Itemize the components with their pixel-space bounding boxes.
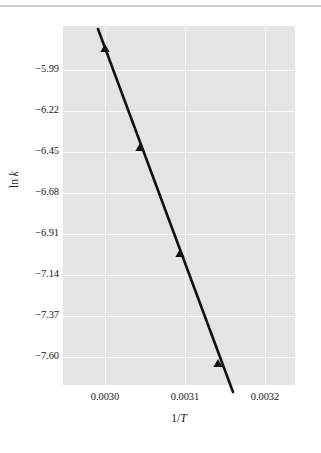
x-axis-title: 1/T <box>63 412 295 424</box>
x-tick-label: 0.0032 <box>225 391 305 402</box>
x-axis-title-variable: T <box>180 412 186 424</box>
y-axis-title: ln k <box>8 171 20 188</box>
y-tick-label: −5.99 <box>3 64 59 75</box>
arrhenius-plot-figure: −5.99 −6.22 −6.45 −6.68 −6.91 −7.14 −7.3… <box>0 0 321 453</box>
gridline-horizontal <box>63 316 295 317</box>
y-tick-label: −7.60 <box>3 351 59 362</box>
y-axis-title-variable: k <box>8 171 20 176</box>
x-tick-label: 0.0031 <box>145 391 225 402</box>
gridline-horizontal <box>63 357 295 358</box>
gridline-horizontal <box>63 275 295 276</box>
gridline-horizontal <box>63 152 295 153</box>
x-tick-label: 0.0030 <box>65 391 145 402</box>
gridline-horizontal <box>63 70 295 71</box>
gridline-horizontal <box>63 234 295 235</box>
y-tick-label: −7.14 <box>3 269 59 280</box>
plot-area <box>63 26 295 385</box>
y-tick-label: −7.37 <box>3 310 59 321</box>
gridline-vertical <box>105 26 106 385</box>
plot-grid-layer <box>63 26 295 385</box>
gridline-horizontal <box>63 111 295 112</box>
gridline-vertical <box>185 26 186 385</box>
y-tick-label: −6.22 <box>3 105 59 116</box>
y-tick-label: −6.68 <box>3 187 59 198</box>
gridline-horizontal <box>63 193 295 194</box>
y-tick-label: −6.91 <box>3 228 59 239</box>
y-axis-tick-labels: −5.99 −6.22 −6.45 −6.68 −6.91 −7.14 −7.3… <box>0 0 59 453</box>
y-tick-label: −6.45 <box>3 146 59 157</box>
gridline-vertical <box>265 26 266 385</box>
